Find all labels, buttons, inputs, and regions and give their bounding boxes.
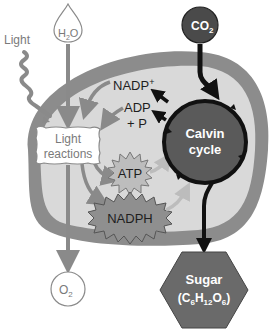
phosphate-label: + P [127, 116, 147, 131]
svg-text:Calvin: Calvin [185, 126, 224, 141]
svg-text:cycle: cycle [189, 142, 222, 157]
svg-text:reactions: reactions [44, 147, 93, 161]
nadp-label: NADP+ [113, 77, 154, 93]
svg-text:Light: Light [55, 132, 82, 146]
sugar-hexagon: Sugar (C6H12O6) [160, 252, 248, 328]
light-label: Light [4, 33, 31, 47]
light-reactions-box: Light reactions [36, 127, 100, 165]
photosynthesis-diagram: Light H2O O2 Light reactions ATP NADP [0, 0, 278, 332]
svg-text:NADPH: NADPH [107, 211, 153, 226]
calvin-cycle: Calvin cycle [164, 101, 246, 183]
adp-label: ADP [124, 100, 151, 115]
light-input: Light [4, 33, 50, 123]
svg-text:Sugar: Sugar [186, 272, 223, 287]
svg-text:ATP: ATP [118, 166, 142, 181]
